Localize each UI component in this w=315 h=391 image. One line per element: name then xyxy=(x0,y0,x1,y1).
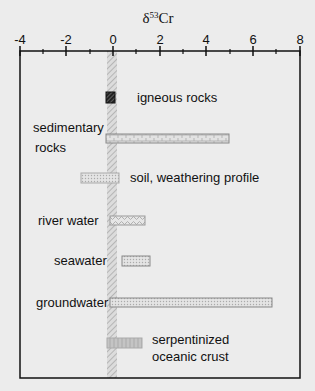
x-axis-tick-labels: -4 -2 0 2 4 6 8 xyxy=(14,32,303,47)
bar-river-water xyxy=(110,216,145,225)
label-oceanic-crust: oceanic crust xyxy=(152,349,229,364)
tick-label: -2 xyxy=(60,32,72,47)
bar-igneous-rocks xyxy=(106,92,115,103)
bar-serpentinized-oceanic-crust xyxy=(107,338,142,348)
chart-title: δ53Cr xyxy=(142,10,173,26)
label-serpentinized: serpentinized xyxy=(152,332,229,347)
tick-label: 6 xyxy=(249,32,256,47)
label-sedimentary-rocks: sedimentary xyxy=(33,120,104,135)
bar-soil-weathering-profile xyxy=(81,173,119,183)
label-sedimentary-rocks-2: rocks xyxy=(35,140,67,155)
label-soil-weathering-profile: soil, weathering profile xyxy=(130,170,259,185)
label-seawater: seawater xyxy=(54,253,107,268)
tick-label: 2 xyxy=(156,32,163,47)
tick-label: -4 xyxy=(14,32,26,47)
bar-sedimentary-rocks xyxy=(106,134,229,143)
tick-label: 4 xyxy=(202,32,209,47)
bar-seawater xyxy=(122,256,150,266)
tick-label: 0 xyxy=(109,32,116,47)
tick-label: 8 xyxy=(296,32,303,47)
label-igneous-rocks: igneous rocks xyxy=(137,90,218,105)
label-river-water: river water xyxy=(38,213,99,228)
bar-groundwater xyxy=(110,298,272,307)
label-groundwater: groundwater xyxy=(36,295,109,310)
chromium-isotope-chart: δ53Cr -4 -2 0 2 4 6 8 igneous rocks sedi xyxy=(0,0,315,391)
